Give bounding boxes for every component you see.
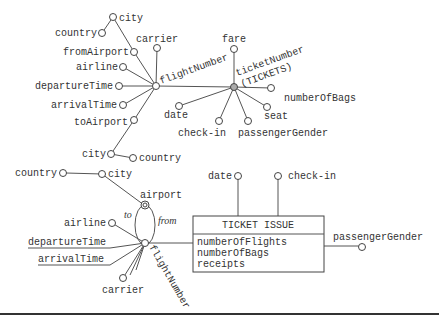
measure-receipts: receipts — [197, 259, 245, 270]
label-fare: fare — [222, 34, 246, 45]
node-country-to — [130, 155, 137, 162]
node-ticketNumber — [231, 84, 238, 91]
node-arrivalTime — [120, 102, 127, 109]
label-country-from: country — [55, 28, 97, 39]
label-passengerGender: passengerGender — [238, 128, 328, 139]
label-seat: seat — [264, 111, 288, 122]
node-flightNumber — [153, 83, 160, 90]
label-date: date — [164, 110, 188, 121]
label-flightNumber: flightNumber — [158, 52, 229, 87]
fact-title: TICKET ISSUE — [222, 220, 294, 231]
label-fromAirport: fromAirport — [63, 47, 129, 58]
top-diagram: city country fromAirport carrier airline… — [35, 13, 356, 164]
label-departureTime: departureTime — [28, 237, 106, 248]
node-departureTime — [116, 83, 123, 90]
label-city-to: city — [82, 149, 106, 160]
node-city — [99, 171, 106, 178]
label-country: country — [15, 168, 57, 179]
label-city: city — [108, 169, 132, 180]
node-carrier — [120, 275, 127, 282]
label-from: from — [158, 215, 177, 226]
node-date — [235, 173, 242, 180]
node-checkin — [216, 118, 223, 125]
label-toAirport: toAirport — [74, 117, 128, 128]
label-airline: airline — [64, 218, 106, 229]
label-date: date — [208, 171, 232, 182]
node-checkin — [275, 173, 282, 180]
node-city-from — [110, 14, 117, 21]
label-checkin: check-in — [178, 128, 226, 139]
label-departureTime: departureTime — [35, 81, 113, 92]
node-seat — [264, 104, 271, 111]
fact-box-ticket-issue: TICKET ISSUE numberOfFlights numberOfBag… — [193, 216, 324, 272]
label-carrier: carrier — [102, 285, 144, 296]
page-bottom-rule — [0, 313, 439, 315]
node-airport-inner — [143, 203, 147, 207]
node-airline — [109, 220, 116, 227]
node-country-from — [99, 30, 106, 37]
label-carrier: carrier — [136, 34, 178, 45]
node-fare — [231, 46, 238, 53]
node-date — [176, 103, 183, 110]
bottom-diagram: country city airport to from airline dep… — [15, 168, 423, 311]
node-city-to — [108, 151, 115, 158]
label-checkin: check-in — [288, 171, 336, 182]
label-arrivalTime: arrivalTime — [38, 254, 104, 265]
node-country — [60, 170, 67, 177]
label-flightNumber: flightNumber — [146, 243, 192, 311]
node-passengerGender — [245, 118, 252, 125]
node-fromAirport — [131, 49, 138, 56]
measure-numberOfBags: numberOfBags — [197, 248, 269, 259]
measure-numberOfFlights: numberOfFlights — [197, 237, 287, 248]
node-carrier — [154, 45, 161, 52]
label-airport: airport — [140, 190, 182, 201]
node-flightNumber — [142, 240, 149, 247]
label-passengerGender: passengerGender — [333, 232, 423, 243]
node-numberOfBags — [268, 85, 275, 92]
label-airline: airline — [76, 62, 118, 73]
label-numberOfBags: numberOfBags — [284, 93, 356, 104]
node-toAirport — [131, 117, 138, 124]
label-to: to — [124, 209, 132, 220]
label-city-from: city — [119, 13, 143, 24]
node-airline — [120, 64, 127, 71]
label-arrivalTime: arrivalTime — [51, 100, 117, 111]
dimensional-fact-model-diagram: city country fromAirport carrier airline… — [0, 0, 439, 326]
node-passengerGender — [359, 244, 366, 251]
label-country-to: country — [139, 153, 181, 164]
